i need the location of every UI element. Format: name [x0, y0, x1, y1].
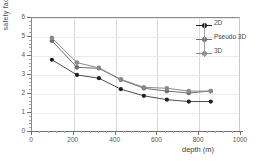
- data-point: [50, 58, 54, 62]
- data-point: [97, 76, 101, 80]
- data-point: [119, 87, 123, 91]
- chart-figure: safety factor 0123456 02004006008001000 …: [0, 0, 262, 161]
- data-point: [142, 85, 147, 90]
- legend-label: 2D: [214, 19, 222, 26]
- data-point: [50, 36, 55, 41]
- data-point: [119, 77, 124, 82]
- data-point: [165, 98, 169, 102]
- data-point: [75, 73, 79, 77]
- legend-item-pseudo-3d[interactable]: Pseudo 3D: [196, 33, 254, 47]
- legend-item-2d[interactable]: 2D: [196, 19, 254, 33]
- data-point: [75, 60, 80, 65]
- data-point: [209, 99, 213, 103]
- data-point: [165, 86, 170, 91]
- data-point: [75, 65, 80, 70]
- legend-item-3d[interactable]: 3D: [196, 47, 254, 61]
- legend-label: Pseudo 3D: [214, 33, 246, 40]
- data-point: [142, 94, 146, 98]
- series-pseudo-3d: [50, 38, 213, 95]
- data-point: [187, 99, 191, 103]
- legend-label: 3D: [214, 47, 222, 54]
- legend-connector-line: [204, 23, 205, 57]
- data-point: [208, 89, 213, 94]
- data-point: [186, 89, 191, 94]
- data-point: [97, 66, 102, 71]
- x-axis-title: depth (m): [182, 145, 214, 154]
- chart-legend: 2DPseudo 3D3D: [196, 19, 254, 61]
